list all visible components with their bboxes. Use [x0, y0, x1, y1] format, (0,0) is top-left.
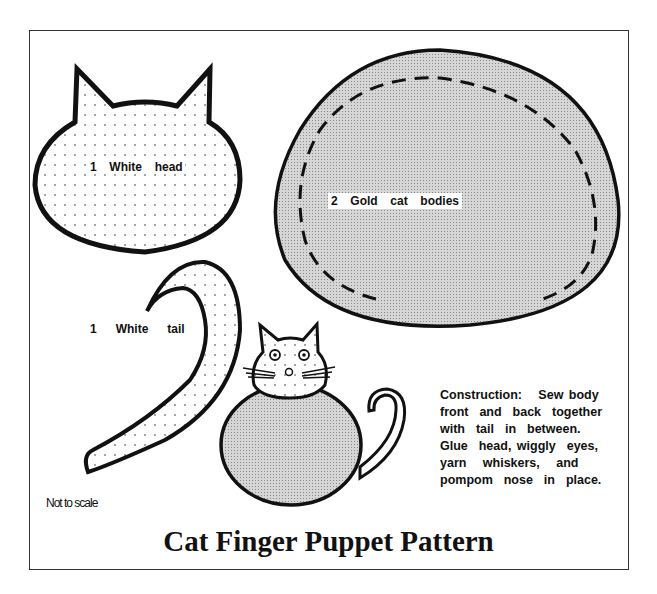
cat-body	[221, 385, 361, 505]
finished-cat-illustration	[221, 324, 405, 505]
tail-piece-label: 1 White tail	[90, 322, 185, 336]
pattern-artwork	[0, 0, 657, 594]
instruction-line: Glue head, wiggly eyes,	[440, 438, 615, 455]
body-piece-label: 2 Gold cat bodies	[328, 193, 462, 209]
instruction-line: Construction: Sew body	[440, 387, 615, 404]
instruction-line: with tail in between.	[440, 421, 615, 438]
page-title: Cat Finger Puppet Pattern	[0, 525, 657, 558]
head-piece-label: 1 White head	[88, 160, 185, 174]
construction-instructions: Construction: Sew body front and back to…	[440, 387, 615, 489]
body-pattern-piece	[275, 50, 618, 326]
instruction-line: pompom nose in place.	[440, 472, 615, 489]
cat-nose	[286, 369, 293, 376]
instruction-line: yarn whiskers, and	[440, 455, 615, 472]
tail-pattern-piece	[86, 262, 240, 472]
scale-note: Not to scale	[46, 496, 97, 510]
cat-tail	[360, 389, 405, 478]
cat-head	[253, 324, 326, 398]
instruction-line: front and back together	[440, 404, 615, 421]
